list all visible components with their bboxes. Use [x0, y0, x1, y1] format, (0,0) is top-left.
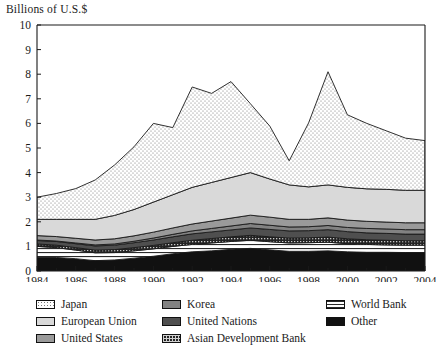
- x-tick-label: 2000: [336, 275, 359, 282]
- x-tick-label: 1996: [258, 275, 281, 282]
- legend-item-united-states[interactable]: United States: [36, 330, 137, 347]
- stacked-area-svg: 0123456789101984198619881990199219941996…: [0, 16, 440, 282]
- legend-swatch-solid-black: [326, 317, 345, 326]
- y-tick-label: 9: [25, 44, 31, 56]
- legend-swatch-medium-gray: [36, 334, 55, 343]
- legend-swatch-horizontal-lines: [326, 300, 345, 309]
- legend-item-japan[interactable]: Japan: [36, 296, 137, 313]
- legend-swatch-light-gray: [36, 317, 55, 326]
- x-tick-label: 1992: [181, 275, 204, 282]
- y-tick-label: 8: [25, 68, 31, 80]
- y-tick-label: 4: [25, 167, 31, 179]
- y-tick-label: 2: [25, 216, 31, 228]
- legend-column-1: JapanEuropean UnionUnited States: [36, 296, 137, 347]
- legend-label: United Nations: [187, 316, 257, 328]
- y-tick-label: 5: [25, 142, 31, 154]
- legend-column-2: KoreaUnited NationsAsian Development Ban…: [162, 296, 306, 347]
- x-tick-label: 1984: [26, 275, 49, 282]
- legend-item-united-nations[interactable]: United Nations: [162, 313, 306, 330]
- x-tick-label: 1988: [103, 275, 126, 282]
- y-tick-label: 10: [20, 19, 32, 31]
- legend-label: Korea: [187, 299, 215, 311]
- legend-label: United States: [61, 333, 123, 345]
- plot-area: 0123456789101984198619881990199219941996…: [0, 16, 440, 282]
- x-tick-label: 2004: [414, 275, 437, 282]
- legend-label: European Union: [61, 316, 137, 328]
- x-tick-label: 2002: [375, 275, 398, 282]
- y-tick-label: 7: [25, 93, 31, 105]
- chart-figure: Billions of U.S.$: [0, 0, 440, 350]
- y-tick-label: 3: [25, 191, 31, 203]
- x-tick-label: 1990: [142, 275, 165, 282]
- legend-item-asian-development-bank[interactable]: Asian Development Bank: [162, 330, 306, 347]
- x-tick-label: 1998: [297, 275, 320, 282]
- legend-swatch-medium-dark-gray: [162, 300, 181, 309]
- area-layers: [37, 72, 425, 271]
- x-tick-label: 1986: [64, 275, 87, 282]
- legend-column-3: World BankOther: [326, 296, 407, 330]
- legend-label: Asian Development Bank: [187, 333, 306, 345]
- legend-item-european-union[interactable]: European Union: [36, 313, 137, 330]
- legend: JapanEuropean UnionUnited StatesKoreaUni…: [0, 296, 440, 350]
- legend-label: World Bank: [351, 299, 407, 311]
- x-tick-label: 1994: [220, 275, 243, 282]
- legend-item-world-bank[interactable]: World Bank: [326, 296, 407, 313]
- legend-swatch-dotted-white: [36, 300, 55, 309]
- legend-item-korea[interactable]: Korea: [162, 296, 306, 313]
- legend-item-other[interactable]: Other: [326, 313, 407, 330]
- y-tick-label: 1: [25, 240, 31, 252]
- legend-swatch-dark-gray: [162, 317, 181, 326]
- legend-label: Japan: [61, 299, 87, 311]
- legend-swatch-checkered-dark: [162, 334, 181, 343]
- chart-title: Billions of U.S.$: [6, 3, 87, 15]
- y-tick-label: 6: [25, 117, 31, 129]
- legend-label: Other: [351, 316, 377, 328]
